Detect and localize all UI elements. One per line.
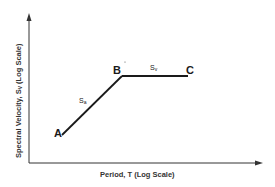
- segment-b-c-label: Sv: [150, 64, 157, 72]
- y-axis-label: Spectral Velocity, SV (Log Scale): [14, 43, 23, 158]
- x-axis-label: Period, T (Log Scale): [100, 170, 175, 179]
- point-c-label: C: [186, 64, 194, 76]
- segment-a-b: [62, 76, 122, 135]
- y-axis-arrow-icon: [27, 13, 32, 21]
- point-b-label: B: [113, 64, 121, 76]
- diagram-canvas: [0, 0, 275, 187]
- point-a-label: A: [54, 127, 62, 139]
- point-b-marker: [124, 61, 125, 62]
- x-axis-arrow-icon: [255, 161, 263, 166]
- segment-a-b-label: Sa: [79, 97, 86, 105]
